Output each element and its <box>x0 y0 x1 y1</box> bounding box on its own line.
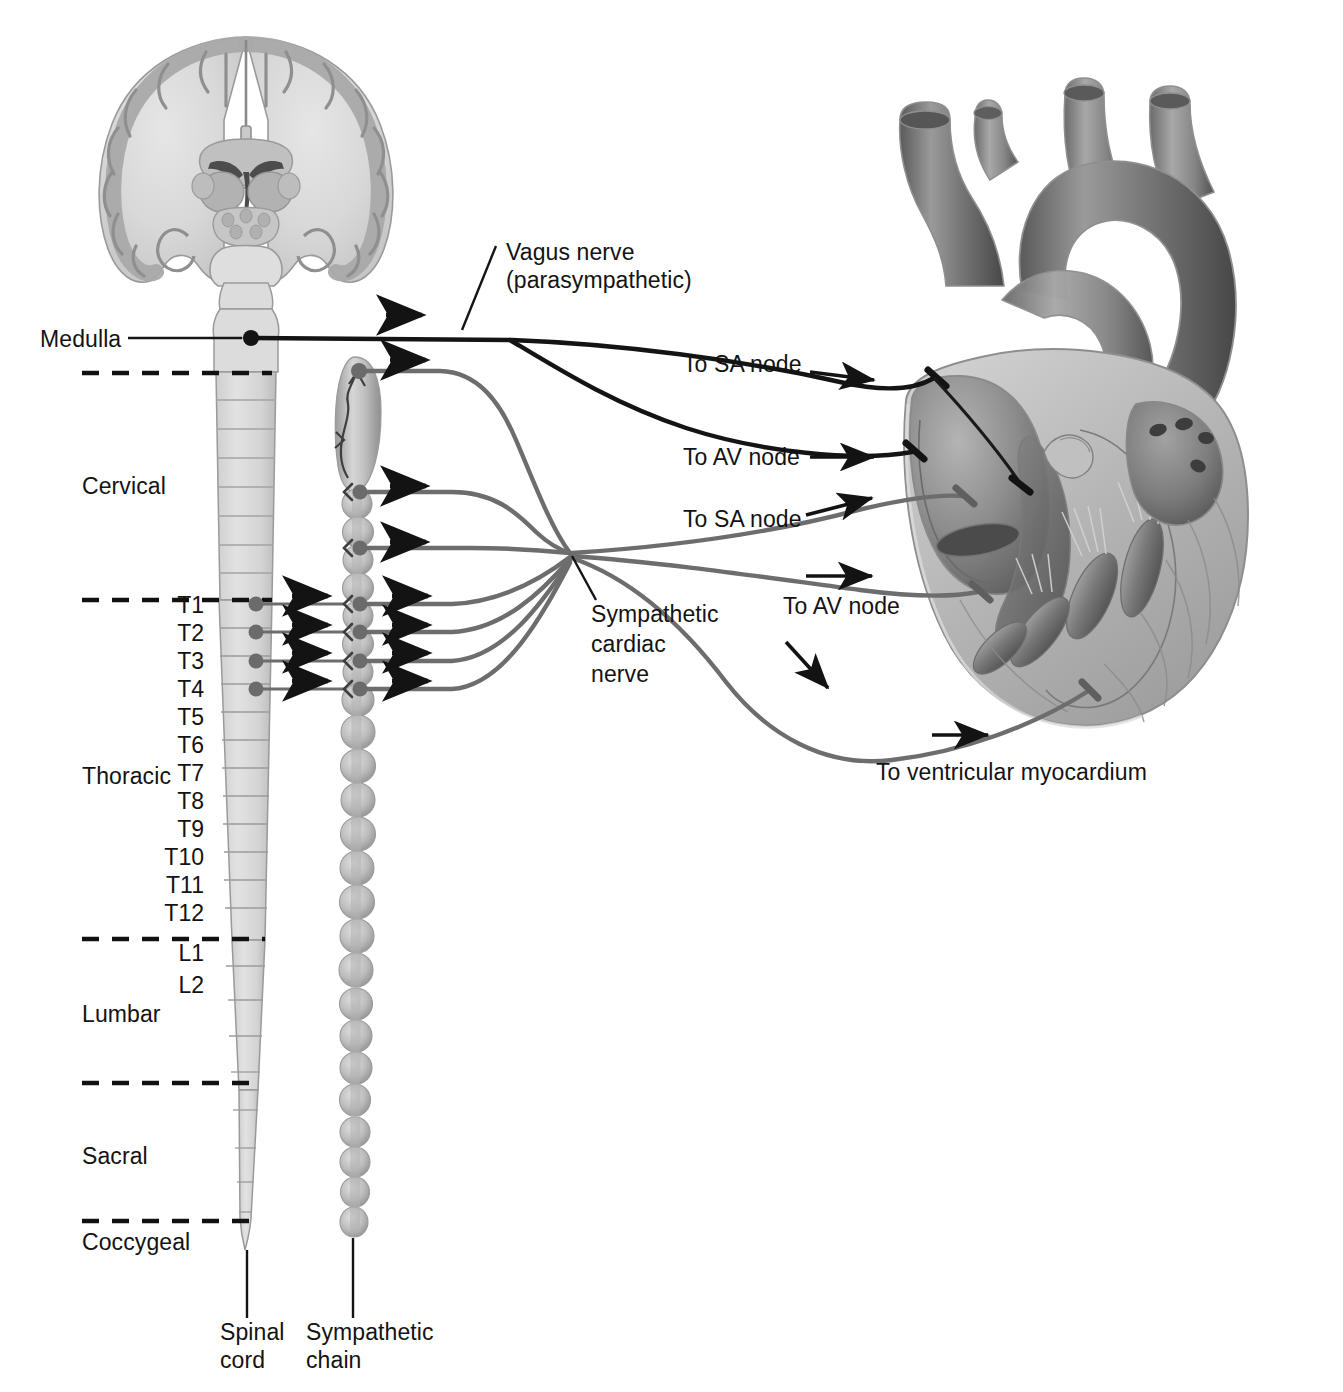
label-vagus-nerve-sub: (parasympathetic) <box>506 266 692 294</box>
label-to-sa-node-sympathetic: To SA node <box>683 505 802 533</box>
label-medulla: Medulla <box>40 325 121 353</box>
segment-label-t11: T11 <box>126 872 204 898</box>
arrow-to-ventricle <box>786 642 828 688</box>
symp-fiber-icg <box>366 548 570 553</box>
label-sympathetic-chain-line2: chain <box>306 1346 361 1374</box>
segment-label-t3: T3 <box>126 648 204 674</box>
symp-fiber-scg <box>364 371 570 553</box>
label-to-av-node-sympathetic: To AV node <box>783 592 900 620</box>
segment-label-t8: T8 <box>126 788 204 814</box>
brain-coronal-section <box>99 38 393 286</box>
label-spinal-cord-line2: cord <box>220 1346 265 1374</box>
segment-label-t7: T7 <box>126 760 204 786</box>
label-spinal-cord-line1: Spinal <box>220 1318 285 1346</box>
label-to-av-node-parasympathetic: To AV node <box>683 443 800 471</box>
spinal-cord <box>213 283 279 1250</box>
segment-label-t9: T9 <box>126 816 204 842</box>
label-to-ventricular-myocardium: To ventricular myocardium <box>876 758 1147 786</box>
figure-canvas: Medulla Vagus nerve (parasympathetic) Sy… <box>0 0 1343 1392</box>
segment-label-l2: L2 <box>126 972 204 998</box>
region-label-cervical: Cervical <box>82 472 166 500</box>
leader-vagus <box>462 246 496 330</box>
medulla-neuron-soma <box>243 330 259 346</box>
region-label-coccygeal: Coccygeal <box>82 1228 190 1256</box>
region-label-sacral: Sacral <box>82 1142 148 1170</box>
segment-label-t10: T10 <box>126 844 204 870</box>
segment-label-t5: T5 <box>126 704 204 730</box>
label-sympathetic-cardiac-nerve-line1: Sympathetic <box>591 600 719 628</box>
label-sympathetic-chain-line1: Sympathetic <box>306 1318 434 1346</box>
segment-label-t1: T1 <box>126 592 204 618</box>
segment-label-l1: L1 <box>126 940 204 966</box>
segment-label-t2: T2 <box>126 620 204 646</box>
region-label-lumbar: Lumbar <box>82 1000 161 1028</box>
label-sympathetic-cardiac-nerve-line2: cardiac <box>591 630 666 658</box>
label-to-sa-node-parasympathetic: To SA node <box>683 350 802 378</box>
segment-label-t4: T4 <box>126 676 204 702</box>
arrow-to-sa-node-symp <box>806 498 872 515</box>
heart <box>900 78 1248 727</box>
segment-label-t6: T6 <box>126 732 204 758</box>
label-vagus-nerve: Vagus nerve <box>506 238 635 266</box>
segment-label-t12: T12 <box>126 900 204 926</box>
label-sympathetic-cardiac-nerve-line3: nerve <box>591 660 649 688</box>
